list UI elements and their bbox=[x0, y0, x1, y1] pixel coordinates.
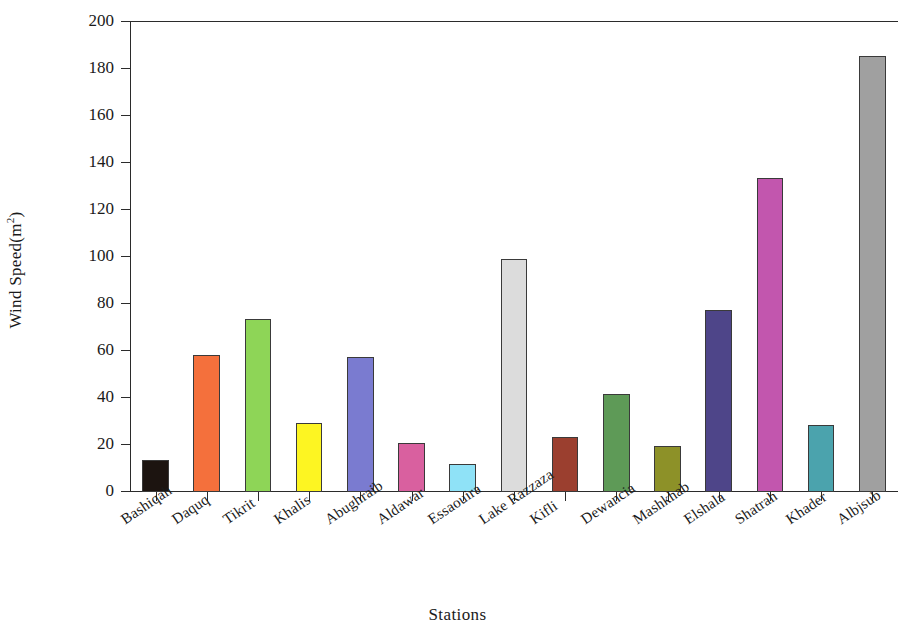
bar bbox=[603, 394, 630, 492]
y-axis-tick-mark bbox=[121, 115, 130, 116]
x-axis-category-label: Daquq bbox=[169, 491, 212, 528]
y-axis-title: Wind Speed(m2) bbox=[4, 170, 26, 370]
y-axis-tick-label: 200 bbox=[89, 10, 115, 32]
y-axis-title-exponent: 2 bbox=[4, 217, 16, 223]
y-axis-tick-mark bbox=[121, 397, 130, 398]
bar bbox=[552, 437, 579, 492]
bar bbox=[859, 56, 886, 492]
x-axis-tick-mark bbox=[565, 492, 566, 501]
y-axis-tick-mark bbox=[121, 162, 130, 163]
y-axis-tick-mark bbox=[121, 303, 130, 304]
y-axis-tick-mark bbox=[121, 444, 130, 445]
y-axis-tick-label: 160 bbox=[89, 104, 115, 126]
x-axis-title: Stations bbox=[0, 605, 915, 625]
bar bbox=[501, 259, 528, 492]
y-axis-tick-mark bbox=[121, 21, 130, 22]
x-axis-category-label: Albjsub bbox=[834, 487, 884, 528]
y-axis-tick-label: 120 bbox=[89, 198, 115, 220]
y-axis-tick-label: 140 bbox=[89, 151, 115, 173]
y-axis-tick-mark bbox=[121, 68, 130, 69]
y-axis-title-text: Wind Speed(m bbox=[6, 223, 25, 328]
y-axis-title-paren: ) bbox=[6, 211, 25, 217]
y-axis-tick-mark bbox=[121, 350, 130, 351]
x-axis-category-label: Khalis bbox=[271, 491, 314, 528]
y-axis-tick-label: 40 bbox=[97, 386, 114, 408]
y-axis-tick-label: 180 bbox=[89, 57, 115, 79]
y-axis-tick-mark bbox=[121, 209, 130, 210]
x-axis-category-label: Kifli bbox=[527, 498, 561, 529]
y-axis-tick-mark bbox=[121, 256, 130, 257]
bars-layer bbox=[130, 22, 898, 492]
y-axis-tick-label: 0 bbox=[106, 480, 115, 502]
y-axis-tick-label: 20 bbox=[97, 433, 114, 455]
bar bbox=[347, 357, 374, 492]
y-axis-tick-label: 80 bbox=[97, 292, 114, 314]
x-axis-category-label: Khader bbox=[783, 489, 830, 528]
x-axis-tick-mark bbox=[258, 492, 259, 501]
y-axis-tick-mark bbox=[121, 491, 130, 492]
bar bbox=[296, 423, 323, 492]
y-axis-tick-label: 100 bbox=[89, 245, 115, 267]
bar bbox=[705, 310, 732, 492]
bar bbox=[193, 355, 220, 492]
bar-chart: Wind Speed(m2) 0204060801001201401601802… bbox=[0, 0, 915, 634]
x-axis-category-label: Tikrit bbox=[220, 495, 258, 529]
bar bbox=[808, 425, 835, 492]
y-axis-tick-label: 60 bbox=[97, 339, 114, 361]
bar bbox=[757, 178, 784, 492]
x-axis-category-label: Shatrah bbox=[732, 488, 781, 529]
bar bbox=[245, 319, 272, 492]
bar bbox=[398, 443, 425, 492]
